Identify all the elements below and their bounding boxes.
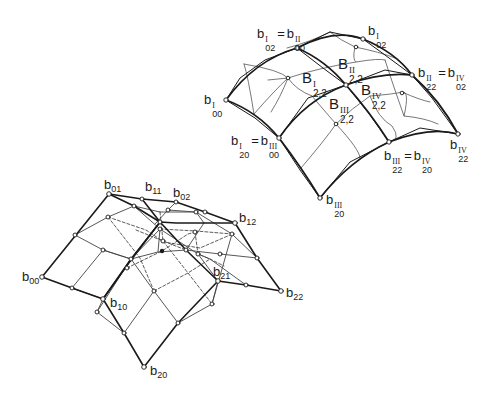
label-b01: b01 [104,178,121,194]
label-b00-I: bI00 [204,93,222,119]
label-B22-IV: BIV2,2 [361,82,386,111]
label-b22-IV: bIV22 [450,138,468,164]
label-b12: b12 [239,211,256,227]
label-b22-III-eq-b20-IV: bIII22=bIV20 [384,149,432,175]
label-b00: b00 [22,270,39,286]
label-B22-I: BI2,2 [302,70,327,99]
label-b02-I-eq-b00-II: bI02=bII00 [257,27,305,53]
label-b22-II-eq-b02-IV: bII22=bIV02 [418,66,466,92]
label-B22-II: BII2,2 [338,56,363,85]
surface-point-marker [160,249,164,253]
label-b02: b02 [173,186,190,202]
label-b20-III: bIII20 [326,193,344,219]
label-b22: b22 [286,286,303,302]
label-B22-III: BIII2,2 [329,96,354,125]
label-b20-I-eq-b00-III: bI20=bIII00 [231,134,279,160]
label-b20: b20 [150,364,167,380]
label-b02-I: bI02 [368,24,386,50]
label-b11: b11 [145,180,162,196]
bezier-patch-diagram [0,0,492,394]
label-b21: b21 [213,265,230,281]
label-b10: b10 [110,296,127,312]
